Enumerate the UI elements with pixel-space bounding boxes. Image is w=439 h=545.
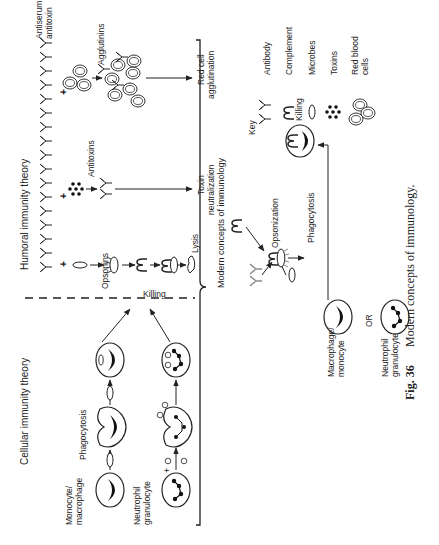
- svg-text:agglutination: agglutination: [206, 51, 216, 99]
- key-complement-label: Complement: [284, 26, 294, 75]
- toxin-neutralization-label: Toxin: [196, 175, 206, 195]
- microbe-key-icon: [309, 105, 315, 119]
- caption-number: Fig. 36: [403, 365, 417, 400]
- svg-text:+: +: [162, 468, 172, 473]
- key-toxins-label: Toxins: [329, 51, 339, 75]
- toxins-icon: [68, 182, 84, 196]
- monocyte-label: Monocyte/: [64, 485, 74, 525]
- modern-neutrophil-label: Neutrophil: [380, 338, 390, 377]
- or-label: OR: [364, 314, 374, 327]
- phagocytosis-label: Phagocytosis: [78, 409, 88, 460]
- neutrophil-label: Neutrophil: [132, 486, 142, 525]
- svg-text:granulocyte: granulocyte: [390, 333, 400, 377]
- rotated-figure: Cellular immunity theory Monocyte/ macro…: [19, 0, 417, 525]
- caption-text: Modern concepts of immunology.: [403, 184, 417, 347]
- cellular-title: Cellular immunity theory: [19, 358, 30, 465]
- section-bracket: [196, 40, 206, 525]
- agglutinins-label: Agglutinins: [96, 23, 106, 65]
- opsonization-label: Opsonization: [270, 198, 280, 248]
- svg-text:+: +: [58, 261, 69, 267]
- svg-text:cells: cells: [360, 58, 370, 75]
- figure-svg: Cellular immunity theory Monocyte/ macro…: [0, 0, 439, 545]
- lysed-microbe-icon: [188, 256, 195, 273]
- figure-caption: Fig. 36 Modern concepts of immunology.: [403, 184, 417, 400]
- killing-cell-icon: [286, 125, 314, 157]
- lysis-label: Lysis: [190, 234, 200, 253]
- phagocytosing-neutrophil-icon: [164, 407, 192, 447]
- antibody-icon: [259, 114, 271, 124]
- opsonized-complex-icon: [269, 249, 289, 267]
- figure-page: Cellular immunity theory Monocyte/ macro…: [0, 0, 439, 545]
- neutrophil-cell-icon: [162, 473, 190, 507]
- red-blood-cell-icon: [349, 99, 375, 125]
- cellular-immunity-section: Cellular immunity theory Monocyte/ macro…: [19, 289, 195, 525]
- antibody-row: [40, 38, 52, 272]
- toxin-icon: [325, 105, 341, 119]
- humoral-immunity-section: Humoral immunity theory Antiserum or ant…: [19, 0, 216, 289]
- ingested-neutrophil-icon: [162, 343, 190, 377]
- svg-text:granulocyte: granulocyte: [142, 481, 152, 525]
- key-antibody-label: Antibody: [262, 41, 272, 75]
- ingested-macrophage-icon: [96, 343, 124, 377]
- svg-text:antitoxin: antitoxin: [44, 7, 54, 39]
- key-title: Key: [247, 120, 257, 135]
- modern-killing-label: Killing: [294, 98, 304, 121]
- svg-text:neutralization: neutralization: [206, 164, 216, 215]
- microbe-icon: [73, 262, 87, 268]
- svg-text:macrophage: macrophage: [74, 477, 84, 525]
- modern-phagocytosis-label: Phagocytosis: [306, 192, 316, 243]
- complement-bound-microbe-icon: [162, 257, 178, 273]
- antiserum-label: Antiserum or: [34, 0, 44, 39]
- svg-text:+: +: [58, 193, 69, 199]
- legend-key: Key Antibody Complement Microbes Toxins …: [247, 26, 375, 135]
- svg-text:+: +: [58, 89, 69, 95]
- phagocytosing-macrophage-icon: [98, 407, 126, 447]
- modern-title: Modern concepts of immunology: [216, 157, 226, 288]
- macrophage-label: Macrophage/: [326, 327, 336, 377]
- opsonins-label: Opsonins: [100, 253, 110, 289]
- key-microbes-label: Microbes: [307, 41, 317, 75]
- key-rbc-label: Red blood: [350, 36, 360, 75]
- complement-icon: [284, 107, 294, 119]
- svg-text:monocyte: monocyte: [336, 340, 346, 377]
- antitoxins-label: Antitoxins: [86, 140, 96, 177]
- red-cell-agglutination-label: Red cell: [196, 54, 206, 85]
- humoral-title: Humoral immunity theory: [19, 159, 30, 270]
- monocyte-cell-icon: [96, 473, 124, 507]
- modern-concepts-section: Modern concepts of immunology Opsonizati…: [216, 98, 409, 377]
